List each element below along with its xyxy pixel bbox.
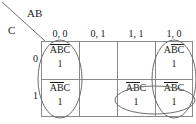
kmap-figure: AB C 0, 0 0, 1 1, 1 1, 0 0 1 ABC1 ABC1 A… <box>0 0 196 124</box>
grouping-ovals <box>0 0 196 124</box>
right-column-group <box>152 40 196 118</box>
left-column-group <box>38 40 82 118</box>
